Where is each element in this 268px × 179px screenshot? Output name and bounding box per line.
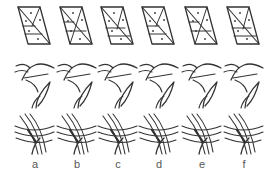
curve-bundle-sketch	[138, 114, 180, 156]
column-f: f	[223, 0, 265, 179]
column-label: f	[223, 158, 265, 170]
column-b: b	[56, 0, 98, 179]
parallelogram-sketch	[97, 4, 139, 50]
arc-sketch	[14, 58, 56, 110]
parallelogram-sketch	[56, 4, 98, 50]
column-label: e	[181, 158, 223, 170]
column-label: c	[97, 158, 139, 170]
parallelogram-sketch	[14, 4, 56, 50]
column-d: d	[138, 0, 180, 179]
arc-sketch	[138, 58, 180, 110]
curve-bundle-sketch	[14, 114, 56, 156]
arc-sketch	[97, 58, 139, 110]
column-label: b	[56, 158, 98, 170]
curve-bundle-sketch	[56, 114, 98, 156]
column-c: c	[97, 0, 139, 179]
arc-sketch	[56, 58, 98, 110]
curve-bundle-sketch	[181, 114, 223, 156]
parallelogram-sketch	[181, 4, 223, 50]
curve-bundle-sketch	[223, 114, 265, 156]
parallelogram-sketch	[223, 4, 265, 50]
column-a: a	[14, 0, 56, 179]
arc-sketch	[181, 58, 223, 110]
column-e: e	[181, 0, 223, 179]
diagram-figure: abcdef	[0, 0, 268, 179]
parallelogram-sketch	[138, 4, 180, 50]
curve-bundle-sketch	[97, 114, 139, 156]
column-label: d	[138, 158, 180, 170]
column-label: a	[14, 158, 56, 170]
arc-sketch	[223, 58, 265, 110]
